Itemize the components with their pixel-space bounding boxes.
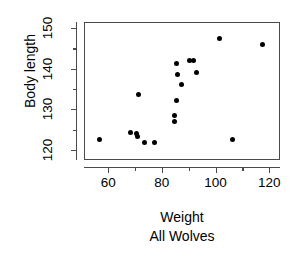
x-axis-minor-tick (189, 168, 190, 171)
data-point (260, 42, 265, 47)
x-axis-tick-label: 80 (142, 175, 182, 190)
y-axis-line (76, 22, 77, 160)
scatter-plot-figure: Body length 120130140150 6080100120 Weig… (0, 0, 302, 263)
x-axis-minor-tick (242, 168, 243, 171)
data-point (152, 140, 157, 145)
data-point (179, 82, 184, 87)
y-axis-tick (71, 109, 76, 110)
x-axis-tick (269, 168, 270, 173)
y-axis-minor-tick (73, 48, 76, 49)
data-point (175, 72, 180, 77)
data-point (217, 36, 222, 41)
y-axis-tick-label: 150 (40, 8, 56, 48)
data-point (174, 61, 179, 66)
data-point (97, 137, 102, 142)
data-point (135, 134, 140, 139)
data-point (230, 137, 235, 142)
data-point (136, 92, 141, 97)
data-point (172, 113, 177, 118)
x-axis-subtitle: All Wolves (84, 228, 280, 245)
y-axis-tick (71, 150, 76, 151)
y-axis-title: Body length (21, 16, 39, 126)
x-axis-tick (108, 168, 109, 173)
x-axis-tick-label: 100 (196, 175, 236, 190)
y-axis-minor-tick (73, 130, 76, 131)
data-point (191, 58, 196, 63)
y-axis-tick-label: 120 (40, 130, 56, 170)
y-axis-tick-label: 140 (40, 49, 56, 89)
y-axis-tick (71, 28, 76, 29)
y-axis-minor-tick (73, 89, 76, 90)
y-axis-tick-label: 130 (40, 89, 56, 129)
x-axis-title: Weight (84, 209, 280, 226)
data-point (128, 130, 133, 135)
data-point (172, 119, 177, 124)
plot-area (84, 22, 280, 160)
x-axis-tick (162, 168, 163, 173)
x-axis-tick (216, 168, 217, 173)
data-point (142, 140, 147, 145)
x-axis-minor-tick (135, 168, 136, 171)
data-point (194, 70, 199, 75)
x-axis-tick-label: 60 (88, 175, 128, 190)
x-axis-tick-label: 120 (249, 175, 289, 190)
x-axis-line (84, 167, 280, 168)
y-axis-tick (71, 69, 76, 70)
data-point (174, 98, 179, 103)
